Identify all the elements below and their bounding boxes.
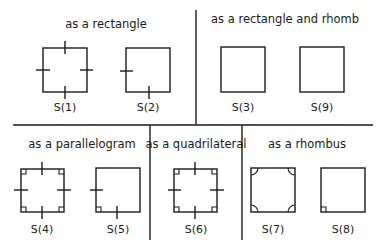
square-s8 [321,168,365,212]
label-s2: S(2) [137,101,160,114]
label-s9: S(9) [311,101,334,114]
label-s4: S(4) [31,223,54,236]
panel-title-rectangle-and-rhomb: as a rectangle and rhomb [211,12,359,26]
label-s8: S(8) [332,223,355,236]
square-s9 [300,47,344,92]
square-s1 [36,41,93,99]
panel-title-parallelogram: as a parallelogram [28,137,136,151]
label-s6: S(6) [185,223,208,236]
panel-title-rhombus: as a rhombus [268,137,346,151]
square-symmetry-diagram [0,0,379,248]
square-s2 [120,48,170,99]
panel-title-rectangle: as a rectangle [65,17,147,31]
square-s4 [14,162,71,219]
label-s3: S(3) [232,101,255,114]
label-s1: S(1) [54,101,77,114]
square-s3 [221,47,265,92]
panel-title-quadrilateral: as a quadrilateral [145,137,246,151]
label-s5: S(5) [107,223,130,236]
square-s7 [251,168,295,212]
square-s6 [168,162,224,219]
square-s5 [90,168,140,219]
label-s7: S(7) [262,223,285,236]
